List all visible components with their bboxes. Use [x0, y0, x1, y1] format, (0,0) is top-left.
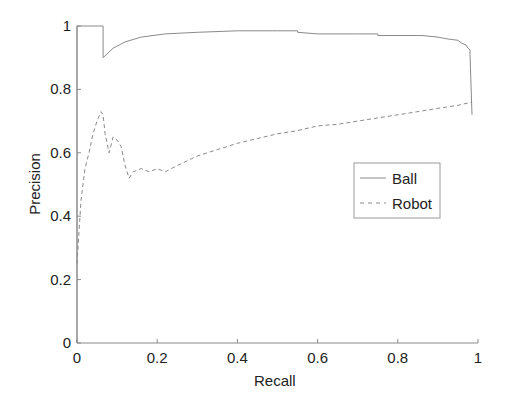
x-tick-label: 0.8 [387, 349, 408, 366]
y-tick-label: 0.2 [50, 271, 71, 288]
x-tick-label: 0 [73, 349, 81, 366]
x-tick-label: 0.4 [227, 349, 248, 366]
y-tick-label: 0.8 [50, 80, 71, 97]
legend: Ball Robot [354, 163, 440, 218]
x-tick-label: 1 [474, 349, 482, 366]
y-tick-label: 1 [63, 17, 71, 34]
y-axis-label: Precision [26, 153, 43, 215]
precision-recall-chart: 00.20.40.60.8100.20.40.60.81 Ball Robot … [0, 0, 505, 403]
legend-ball-label: Ball [392, 170, 417, 187]
x-tick-label: 0.6 [307, 349, 328, 366]
y-tick-label: 0 [63, 334, 71, 351]
legend-robot-label: Robot [392, 195, 433, 212]
x-tick-label: 0.2 [147, 349, 168, 366]
y-tick-label: 0.6 [50, 144, 71, 161]
x-axis-label: Recall [254, 372, 296, 389]
y-tick-label: 0.4 [50, 207, 71, 224]
